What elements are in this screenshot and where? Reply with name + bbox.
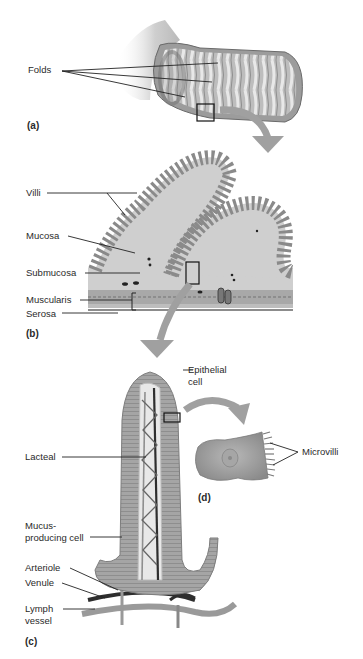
label-muscularis: Muscularis <box>26 294 71 305</box>
label-epithelial-line1: Epithelial <box>188 364 227 375</box>
label-mucus-line2: producing cell <box>25 532 84 543</box>
label-epithelial-line2: cell <box>188 376 202 387</box>
panel-a-intestine <box>62 20 302 153</box>
panel-d-epithelial-cell <box>195 432 298 480</box>
label-lymph-line1: Lymph <box>25 603 53 614</box>
label-arteriole: Arteriole <box>25 562 60 573</box>
panel-b-wall-section <box>47 157 293 358</box>
panel-label-c: (c) <box>25 636 37 647</box>
panel-label-b: (b) <box>26 328 39 339</box>
panel-label-a: (a) <box>27 120 39 131</box>
small-intestine-diagram: Folds (a) Villi Mucosa Submucosa Muscula… <box>0 0 363 659</box>
diagram-artwork <box>0 0 363 659</box>
label-venule: Venule <box>25 577 54 588</box>
label-folds: Folds <box>28 64 51 75</box>
label-microvilli: Microvilli <box>302 446 338 457</box>
label-serosa: Serosa <box>26 308 56 319</box>
label-mucosa: Mucosa <box>26 230 59 241</box>
label-mucus-line1: Mucus- <box>25 520 56 531</box>
panel-label-d: (d) <box>198 492 211 503</box>
panel-c-villus <box>62 370 250 628</box>
label-lacteal: Lacteal <box>25 451 56 462</box>
label-villi: Villi <box>26 187 41 198</box>
label-lymph-line2: vessel <box>25 615 52 626</box>
label-submucosa: Submucosa <box>26 267 76 278</box>
